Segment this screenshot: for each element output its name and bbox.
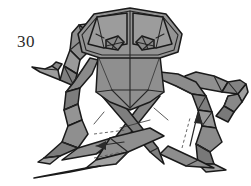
left-claw-tip bbox=[32, 62, 62, 80]
origami-diagram: 30 .o { stroke:#1a1a1a; stroke-width:1.5… bbox=[0, 0, 251, 186]
origami-figure-svg: .o { stroke:#1a1a1a; stroke-width:1.5; s… bbox=[0, 0, 251, 186]
right-claw bbox=[216, 94, 242, 122]
head-panel bbox=[78, 8, 182, 58]
lower-left-blade bbox=[34, 166, 100, 178]
step-number-label: 30 bbox=[17, 33, 35, 50]
